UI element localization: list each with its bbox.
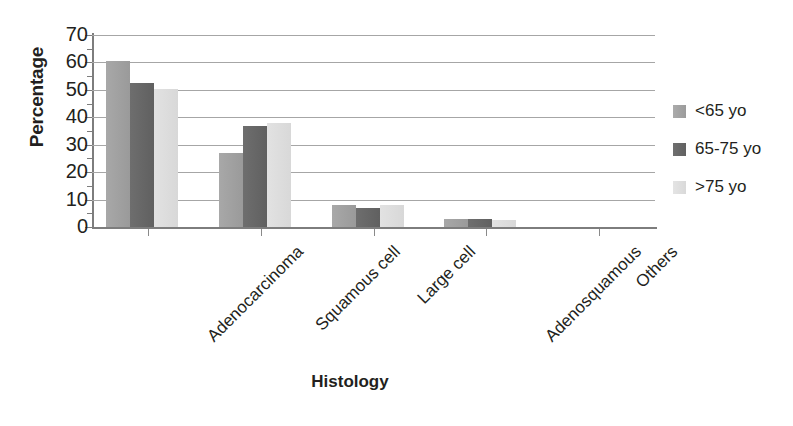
x-axis-category-label: Large cell [413,242,479,308]
bar [492,220,516,227]
y-axis-minor-tick [87,186,92,187]
bar [267,123,291,227]
legend-label: >75 yo [695,177,747,197]
legend-color-swatch [673,143,686,156]
x-axis-tick [374,229,375,236]
legend-item: 65-75 yo [673,130,761,168]
gridline [92,35,655,36]
x-axis-tick [599,229,600,236]
legend-label: <65 yo [695,101,747,121]
legend-item: <65 yo [673,92,761,130]
legend-color-swatch [673,105,686,118]
bar [154,89,178,228]
x-axis-tick [148,229,149,236]
bar [332,205,356,227]
bar [106,61,130,227]
x-axis-category-label: Adenocarcinoma [204,242,308,346]
x-axis-tick [261,229,262,236]
bar [468,219,492,227]
legend: <65 yo65-75 yo>75 yo [673,92,761,206]
y-axis-minor-tick [87,76,92,77]
bar-chart: Percentage 010203040506070 Adenocarcinom… [0,0,793,426]
y-axis-tick-label: 50 [28,79,88,99]
bar [130,83,154,227]
gridline [92,62,655,63]
legend-label: 65-75 yo [695,139,761,159]
bar [444,219,468,227]
bar [356,208,380,227]
plot-area [92,35,655,227]
y-axis-tick-label: 30 [28,134,88,154]
x-axis-title: Histology [0,372,700,392]
y-axis-tick-label: 0 [28,216,88,236]
y-axis-tick-label: 40 [28,106,88,126]
x-axis-category-label: Squamous cell [312,242,405,335]
y-axis-tick-label: 60 [28,51,88,71]
y-axis-tick-label: 70 [28,24,88,44]
legend-color-swatch [673,181,686,194]
y-axis-tick-label: 20 [28,161,88,181]
bar [219,153,243,227]
x-axis-category-label: Adenosquamous [541,242,645,346]
bar [380,205,404,227]
x-axis-tick [486,229,487,236]
legend-item: >75 yo [673,168,761,206]
bar [243,126,267,227]
y-axis-tick-label: 10 [28,189,88,209]
y-axis-minor-tick [87,131,92,132]
